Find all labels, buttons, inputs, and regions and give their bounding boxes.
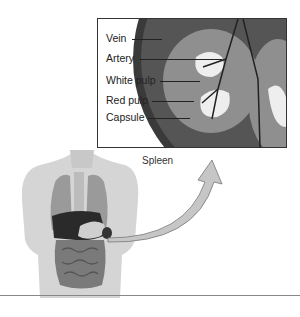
leader-line — [152, 101, 194, 102]
label-capsule: Capsule — [106, 111, 145, 123]
caption-spleen: Spleen — [142, 155, 173, 166]
label-white-pulp: White pulp — [106, 74, 156, 86]
torso-figure — [22, 150, 138, 298]
label-red-pulp: Red pulp — [106, 94, 148, 106]
spleen-inset: Vein Artery White pulp Red pulp Capsule — [97, 18, 287, 148]
baseline-divider — [0, 295, 300, 296]
leader-line — [140, 59, 222, 60]
label-artery: Artery — [106, 52, 134, 64]
leader-line — [160, 81, 200, 82]
leader-line — [148, 118, 190, 119]
leader-line — [132, 39, 162, 40]
label-vein: Vein — [106, 32, 126, 44]
